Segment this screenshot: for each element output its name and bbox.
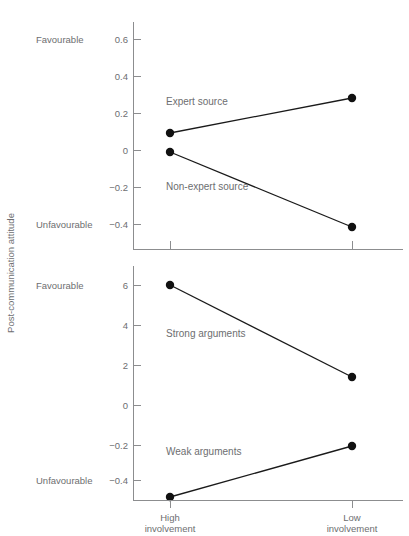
weak-arguments-label: Weak arguments — [166, 446, 241, 457]
non-expert-source-point-low — [348, 223, 356, 231]
chart-figure: Post-communication attitude 0.6 0.4 0.2 … — [0, 0, 409, 536]
x-category-high-line2: involvement — [145, 523, 196, 534]
bottom-tick-label-1: 4 — [123, 320, 128, 331]
top-tick-label-4: −0.2 — [109, 182, 128, 193]
top-tick-label-3: 0 — [123, 145, 128, 156]
x-category-low-line1: Low — [343, 512, 361, 523]
bottom-tick-label-2: 2 — [123, 360, 128, 371]
top-tick-label-0: 0.6 — [115, 34, 128, 45]
strong-arguments-point-high — [166, 281, 174, 289]
non-expert-source-label: Non-expert source — [166, 181, 249, 192]
bottom-tick-label-5: −0.4 — [109, 475, 128, 486]
strong-arguments-point-low — [348, 373, 356, 381]
top-tick-label-5: −0.4 — [109, 219, 128, 230]
top-unfavourable-anchor: Unfavourable — [36, 219, 93, 230]
y-axis-title: Post-communication attitude — [5, 213, 16, 333]
expert-source-label: Expert source — [166, 96, 228, 107]
top-favourable-anchor: Favourable — [36, 34, 84, 45]
strong-arguments-label: Strong arguments — [166, 328, 246, 339]
weak-arguments-point-high — [166, 493, 174, 501]
top-tick-label-2: 0.2 — [115, 108, 128, 119]
expert-source-point-low — [348, 94, 356, 102]
bottom-tick-label-0: 6 — [123, 280, 128, 291]
bottom-unfavourable-anchor: Unfavourable — [36, 475, 93, 486]
weak-arguments-point-low — [348, 442, 356, 450]
bottom-tick-label-3: 0 — [123, 400, 128, 411]
bottom-favourable-anchor: Favourable — [36, 280, 84, 291]
non-expert-source-point-high — [166, 148, 174, 156]
expert-source-point-high — [166, 129, 174, 137]
bottom-tick-label-4: −0.2 — [109, 440, 128, 451]
top-tick-label-1: 0.4 — [115, 71, 128, 82]
x-category-low-line2: involvement — [327, 523, 378, 534]
x-category-high-line1: High — [160, 512, 180, 523]
